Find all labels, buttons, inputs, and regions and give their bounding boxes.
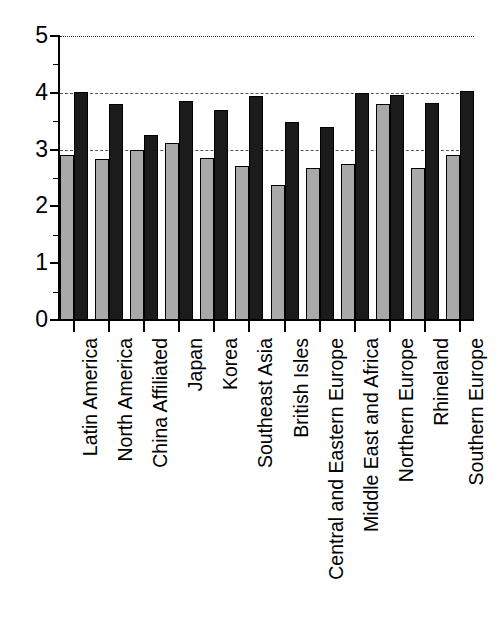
bar-series-1-3[interactable]	[165, 143, 179, 320]
y-tick-label-3: 3	[22, 138, 48, 161]
bar-series-2-2[interactable]	[144, 135, 158, 320]
y-tick-label-5: 5	[22, 24, 48, 47]
x-tick-1	[108, 321, 110, 332]
x-tick-5	[248, 321, 250, 332]
y-tick-3	[50, 149, 60, 151]
y-tick-label-wrap-1: 1	[14, 251, 48, 274]
y-tick-label-2: 2	[22, 194, 48, 217]
y-tick-5	[50, 35, 60, 37]
category-label-1: North America	[116, 338, 136, 462]
x-tick-9	[389, 321, 391, 332]
bar-series-2-1[interactable]	[109, 104, 123, 320]
y-tick-label-wrap-3: 3	[14, 138, 48, 161]
category-label-0: Latin America	[81, 338, 101, 456]
category-label-9: Northern Europe	[397, 338, 417, 482]
bar-series-1-7[interactable]	[306, 168, 320, 320]
category-label-10: Rhineland	[432, 338, 452, 426]
bar-series-2-3[interactable]	[179, 101, 193, 320]
x-tick-4	[213, 321, 215, 332]
bar-series-1-11[interactable]	[446, 155, 460, 320]
bar-series-2-0[interactable]	[74, 92, 88, 320]
y-tick-label-wrap-2: 2	[14, 194, 48, 217]
bar-series-1-4[interactable]	[200, 158, 214, 320]
x-tick-7	[319, 321, 321, 332]
x-tick-3	[178, 321, 180, 332]
x-tick-10	[424, 321, 426, 332]
y-tick-label-0: 0	[22, 308, 48, 331]
bar-series-2-4[interactable]	[214, 110, 228, 320]
bar-series-1-2[interactable]	[130, 150, 144, 320]
y-tick-minor-2.5	[53, 178, 59, 179]
category-label-7: Central and Eastern Europe	[327, 338, 347, 580]
category-label-5: Southeast Asia	[256, 338, 276, 468]
bar-series-2-11[interactable]	[460, 91, 474, 320]
bar-series-1-0[interactable]	[60, 155, 74, 320]
x-tick-6	[284, 321, 286, 332]
bar-series-1-6[interactable]	[271, 185, 285, 320]
bar-series-2-6[interactable]	[285, 122, 299, 320]
x-tick-11	[459, 321, 461, 332]
y-tick-minor-3.5	[53, 121, 59, 122]
y-tick-minor-1.5	[53, 235, 59, 236]
y-tick-label-1: 1	[22, 251, 48, 274]
category-label-3: Japan	[186, 338, 206, 391]
bar-series-1-10[interactable]	[411, 168, 425, 320]
bar-chart-figure: 012345 Latin AmericaNorth AmericaChina A…	[0, 0, 499, 636]
y-tick-minor-4.5	[53, 64, 59, 65]
bar-series-2-8[interactable]	[355, 93, 369, 320]
bar-series-2-10[interactable]	[425, 103, 439, 320]
bar-series-2-9[interactable]	[390, 95, 404, 320]
y-tick-label-wrap-5: 5	[14, 24, 48, 47]
y-tick-minor-0.5	[53, 292, 59, 293]
category-label-11: Southern Europe	[467, 338, 487, 485]
y-tick-2	[50, 205, 60, 207]
y-tick-label-wrap-4: 4	[14, 81, 48, 104]
bar-series-1-5[interactable]	[235, 166, 249, 320]
bar-series-1-9[interactable]	[376, 104, 390, 320]
category-label-2: China Affiliated	[151, 338, 171, 468]
x-tick-8	[354, 321, 356, 332]
bar-series-1-8[interactable]	[341, 164, 355, 320]
y-tick-label-wrap-0: 0	[14, 308, 48, 331]
y-tick-label-4: 4	[22, 81, 48, 104]
y-tick-0	[50, 319, 60, 321]
x-tick-2	[143, 321, 145, 332]
bar-series-1-1[interactable]	[95, 159, 109, 320]
category-label-8: Middle East and Africa	[362, 338, 382, 532]
y-tick-4	[50, 92, 60, 94]
x-tick-0	[73, 321, 75, 332]
plot-area	[60, 36, 474, 320]
bar-series-2-5[interactable]	[249, 96, 263, 320]
y-tick-1	[50, 262, 60, 264]
category-label-6: British Isles	[292, 338, 312, 438]
bar-series-2-7[interactable]	[320, 127, 334, 320]
category-label-4: Korea	[221, 338, 241, 390]
